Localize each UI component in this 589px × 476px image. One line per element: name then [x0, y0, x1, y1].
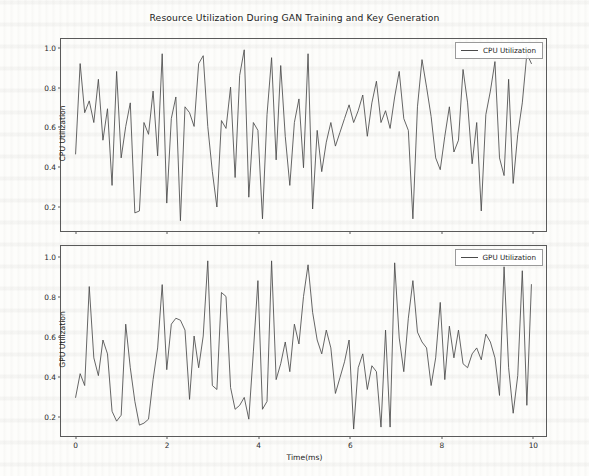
x-tick-label: 8	[439, 441, 444, 450]
x-tick-mark	[258, 436, 259, 439]
y-tick-label: 0.8	[44, 83, 56, 92]
y-tick-label: 0.6	[44, 333, 56, 342]
x-tick-mark	[350, 231, 351, 234]
x-tick-label: 0	[73, 441, 78, 450]
cpu-legend: CPU Utilization	[455, 42, 543, 59]
gpu-utilization-plot: 0.20.40.60.81.0 0246810 GPU Utilization …	[60, 245, 547, 437]
cpu-utilization-line	[76, 50, 532, 221]
gpu-plot-svg	[61, 246, 546, 436]
cpu-plot-svg	[61, 39, 546, 231]
x-tick-mark	[441, 231, 442, 234]
x-tick-mark	[350, 436, 351, 439]
y-tick-label: 0.8	[44, 293, 56, 302]
x-tick-mark	[75, 231, 76, 234]
x-tick-mark	[75, 436, 76, 439]
y-tick-mark	[58, 206, 61, 207]
x-tick-label: 10	[529, 441, 538, 450]
x-tick-mark	[533, 231, 534, 234]
gpu-legend-label: GPU Utilization	[483, 253, 536, 262]
x-tick-label: 4	[256, 441, 261, 450]
y-tick-label: 1.0	[44, 43, 56, 52]
x-tick-label: 6	[348, 441, 353, 450]
x-tick-mark	[533, 436, 534, 439]
gpu-legend-line-swatch	[461, 257, 478, 258]
y-tick-label: 0.4	[44, 163, 56, 172]
x-tick-mark	[258, 231, 259, 234]
gpu-utilization-line	[76, 261, 532, 429]
gpu-y-axis-label: GPU Utilization	[58, 295, 67, 385]
x-tick-label: 2	[165, 441, 170, 450]
x-tick-mark	[441, 436, 442, 439]
cpu-legend-line-swatch	[461, 50, 478, 51]
x-axis-label: Time(ms)	[61, 453, 548, 462]
y-tick-label: 0.2	[44, 413, 56, 422]
x-tick-mark	[167, 231, 168, 234]
cpu-utilization-plot: 0.20.40.60.81.0 CPU Utilization CPU Util…	[60, 38, 547, 232]
x-tick-mark	[167, 436, 168, 439]
cpu-legend-label: CPU Utilization	[483, 46, 536, 55]
y-tick-label: 0.2	[44, 202, 56, 211]
y-tick-label: 0.6	[44, 123, 56, 132]
y-tick-mark	[58, 47, 61, 48]
y-tick-mark	[58, 417, 61, 418]
figure-canvas: Resource Utilization During GAN Training…	[0, 0, 589, 476]
gpu-legend: GPU Utilization	[455, 249, 543, 266]
y-tick-label: 1.0	[44, 253, 56, 262]
page-title: Resource Utilization During GAN Training…	[0, 12, 589, 23]
cpu-y-axis-label: CPU Utilization	[58, 89, 67, 179]
y-tick-label: 0.4	[44, 373, 56, 382]
y-tick-mark	[58, 257, 61, 258]
